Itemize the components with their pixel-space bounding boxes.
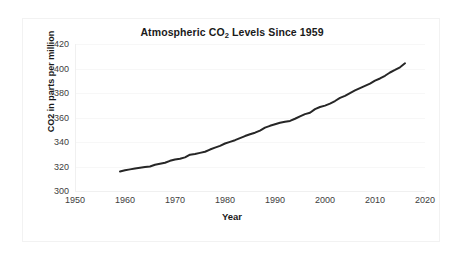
chart-title-suffix: Levels Since 1959 — [229, 26, 324, 38]
y-tick-label: 360 — [35, 113, 69, 123]
x-tick-label: 1980 — [205, 195, 245, 205]
x-tick-label: 1970 — [155, 195, 195, 205]
x-tick-label: 1990 — [255, 195, 295, 205]
y-tick-label: 400 — [35, 64, 69, 74]
x-tick-label: 2000 — [305, 195, 345, 205]
chart-title: Atmospheric CO2 Levels Since 1959 — [23, 26, 440, 40]
x-tick-label: 1960 — [105, 195, 145, 205]
chart-title-prefix: Atmospheric CO — [140, 26, 224, 38]
y-tick-label: 320 — [35, 162, 69, 172]
x-tick-label: 2020 — [405, 195, 440, 205]
series-line-atmospheric-co2 — [75, 44, 425, 191]
x-axis-title: Year — [23, 211, 440, 222]
x-tick-label: 2010 — [355, 195, 395, 205]
y-tick-label: 340 — [35, 137, 69, 147]
plot-area — [75, 44, 425, 191]
y-tick-label: 380 — [35, 88, 69, 98]
chart-container: Atmospheric CO2 Levels Since 1959 CO2 in… — [22, 18, 440, 242]
y-tick-label: 420 — [35, 39, 69, 49]
x-tick-label: 1950 — [55, 195, 95, 205]
x-axis-line — [75, 191, 425, 192]
